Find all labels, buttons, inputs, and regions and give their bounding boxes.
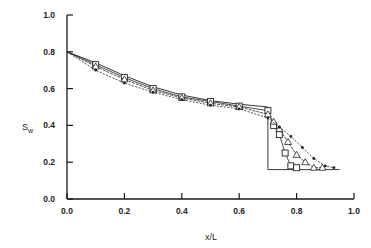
x-tick-label: 0.6	[233, 206, 245, 216]
dot-marker	[209, 104, 212, 107]
dot-marker	[123, 82, 126, 85]
x-axis-label: x/L	[205, 232, 217, 242]
series-square	[67, 52, 300, 171]
dot-marker	[94, 69, 97, 72]
square-marker	[294, 165, 300, 171]
dot-marker	[333, 166, 336, 169]
y-tick-label: 0.6	[43, 84, 55, 94]
dot-marker	[180, 98, 183, 101]
x-tick-label: 0.4	[176, 206, 188, 216]
y-tick-label: 0.0	[43, 194, 55, 204]
x-tick-label: 0.2	[118, 206, 130, 216]
dot-marker	[289, 135, 292, 138]
dot-marker	[267, 117, 270, 120]
y-tick-label: 1.0	[43, 10, 55, 20]
dot-marker	[278, 126, 281, 129]
axis-labels: Sw x/L	[22, 122, 217, 242]
y-axis-label: Sw	[22, 122, 34, 134]
dot-marker	[301, 146, 304, 149]
triangle-marker	[284, 138, 291, 144]
dot-marker	[152, 91, 155, 94]
plot-series	[67, 52, 340, 171]
dot-marker	[238, 107, 241, 110]
y-tick-label: 0.4	[43, 120, 55, 130]
dot-marker	[324, 164, 327, 167]
series-analytical	[67, 52, 340, 170]
x-tick-label: 0.8	[291, 206, 303, 216]
series-dot	[67, 52, 335, 169]
axes: 0.00.20.40.60.81.00.00.20.40.60.81.0	[43, 10, 360, 216]
x-tick-label: 0.0	[61, 206, 73, 216]
triangle-marker	[310, 164, 317, 170]
square-marker	[288, 163, 294, 169]
triangle-marker	[293, 151, 300, 157]
dot-marker	[312, 157, 315, 160]
y-tick-label: 0.2	[43, 157, 55, 167]
saturation-profile-chart: 0.00.20.40.60.81.00.00.20.40.60.81.0 Sw …	[0, 0, 371, 248]
square-marker	[282, 150, 288, 156]
y-tick-label: 0.8	[43, 47, 55, 57]
x-tick-label: 1.0	[348, 206, 360, 216]
